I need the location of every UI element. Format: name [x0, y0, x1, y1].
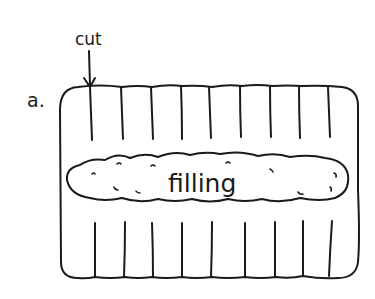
filling-label: filling — [168, 169, 236, 198]
down-arrow-icon — [84, 51, 95, 87]
cut-line — [152, 223, 153, 277]
cut-line — [329, 221, 332, 276]
cut-line — [240, 86, 241, 137]
cut-line — [209, 87, 211, 138]
top-cut-lines — [90, 86, 330, 140]
cut-line — [270, 86, 271, 137]
cut-label: cut — [75, 29, 102, 49]
cut-line — [151, 87, 153, 139]
pastry-cut-diagram: a. cut — [0, 0, 375, 299]
cut-line — [181, 86, 182, 139]
cut-line — [211, 222, 212, 277]
cut-line — [328, 87, 330, 137]
cut-line — [299, 86, 300, 138]
bottom-cut-lines — [95, 221, 332, 277]
cut-line — [124, 222, 125, 277]
part-label: a. — [27, 89, 45, 111]
cut-line — [90, 87, 92, 140]
cut-line — [121, 87, 123, 139]
diagram-canvas: a. cut — [0, 0, 375, 299]
